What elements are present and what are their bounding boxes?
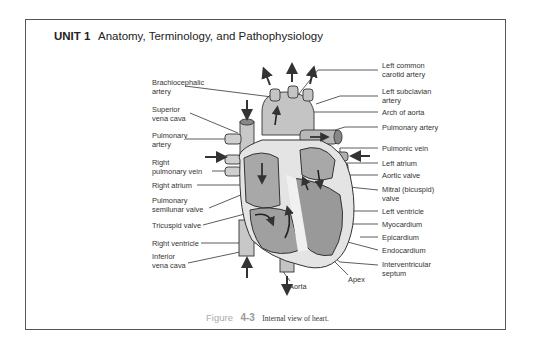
label-interventricular-septum: Interventricular septum (382, 261, 431, 278)
label-mitral-valve: Mitral (bicuspid) valve (382, 186, 434, 203)
heart-diagram (0, 0, 535, 347)
label-pulmonary-artery-left: Pulmonary artery (152, 132, 187, 149)
label-left-ventricle: Left ventricle (382, 208, 424, 217)
label-left-atrium: Left atrium (382, 160, 417, 169)
caption-text: Internal view of heart. (262, 314, 329, 323)
heart-body (239, 140, 354, 268)
figure-caption: Figure 4-3 Internal view of heart. (0, 307, 535, 325)
label-pulmonary-semilunar-valve: Pulmonary semilunar valve (152, 197, 203, 214)
label-myocardium: Myocardium (382, 221, 422, 230)
label-right-atrium: Right atrium (152, 182, 192, 191)
label-superior-vena-cava: Superior vena cava (152, 106, 186, 123)
label-arch-of-aorta: Arch of aorta (382, 109, 424, 118)
label-left-subclavian-artery: Left subclavian artery (382, 88, 431, 105)
label-inferior-vena-cava: Inferior vena cava (152, 253, 186, 270)
label-aorta: Aorta (289, 283, 307, 292)
label-right-pulmonary-vein: Right pulmonary vein (152, 159, 202, 176)
label-left-common-carotid-artery: Left common carotid artery (382, 62, 425, 79)
label-pulmonic-vein: Pulmonic vein (382, 145, 428, 154)
label-brachiocephalic-artery: Brachiocephalic artery (152, 79, 204, 96)
label-pulmonary-artery-right: Pulmonary artery (382, 124, 438, 133)
label-apex: Apex (348, 276, 365, 285)
label-endocardium: Endocardium (382, 247, 426, 256)
caption-figure-number: 4-3 (240, 312, 254, 323)
label-aortic-valve: Aortic valve (382, 172, 420, 181)
label-epicardium: Epicardium (382, 234, 419, 243)
label-right-ventricle: Right ventricle (152, 240, 199, 249)
caption-figure-word: Figure (206, 312, 233, 323)
label-tricuspid-valve: Tricuspid valve (152, 222, 201, 231)
